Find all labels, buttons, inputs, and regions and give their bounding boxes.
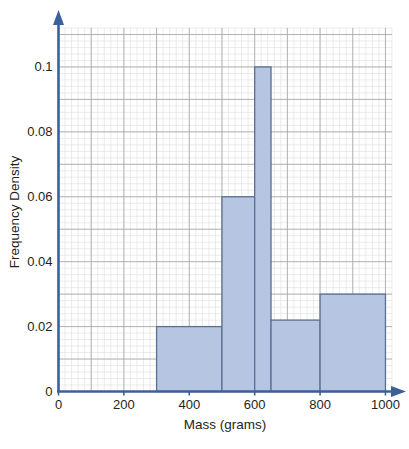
y-axis-tick-label: 0.04 <box>27 254 52 269</box>
y-axis-arrowhead <box>53 10 64 25</box>
histogram-bar <box>255 67 271 392</box>
x-axis-tick-label: 0 <box>55 397 62 412</box>
y-axis-title: Frequency Density <box>7 155 22 268</box>
frequency-density-histogram: 02004006008001000 00.020.040.060.080.1 M… <box>0 0 409 449</box>
histogram-bar <box>222 197 255 392</box>
x-axis-arrowhead <box>391 386 406 397</box>
x-axis-tick-label: 600 <box>244 397 266 412</box>
y-axis-tick-labels: 00.020.040.060.080.1 <box>27 59 52 399</box>
x-axis-tick-label: 200 <box>113 397 135 412</box>
histogram-bar <box>320 294 385 391</box>
x-axis-tick-label: 1000 <box>371 397 400 412</box>
y-axis-tick-label: 0.02 <box>27 319 52 334</box>
histogram-figure: 02004006008001000 00.020.040.060.080.1 M… <box>0 0 409 449</box>
x-axis-tick-labels: 02004006008001000 <box>55 392 400 412</box>
y-axis-tick-label: 0.08 <box>27 124 52 139</box>
y-axis-tick-label: 0 <box>45 384 52 399</box>
y-axis-tick-label: 0.1 <box>34 59 52 74</box>
histogram-bar <box>157 327 222 392</box>
x-axis-title: Mass (grams) <box>184 417 267 432</box>
x-axis-tick-label: 400 <box>178 397 200 412</box>
x-axis-tick-label: 800 <box>309 397 331 412</box>
histogram-bar <box>271 320 320 391</box>
y-axis-tick-label: 0.06 <box>27 189 52 204</box>
